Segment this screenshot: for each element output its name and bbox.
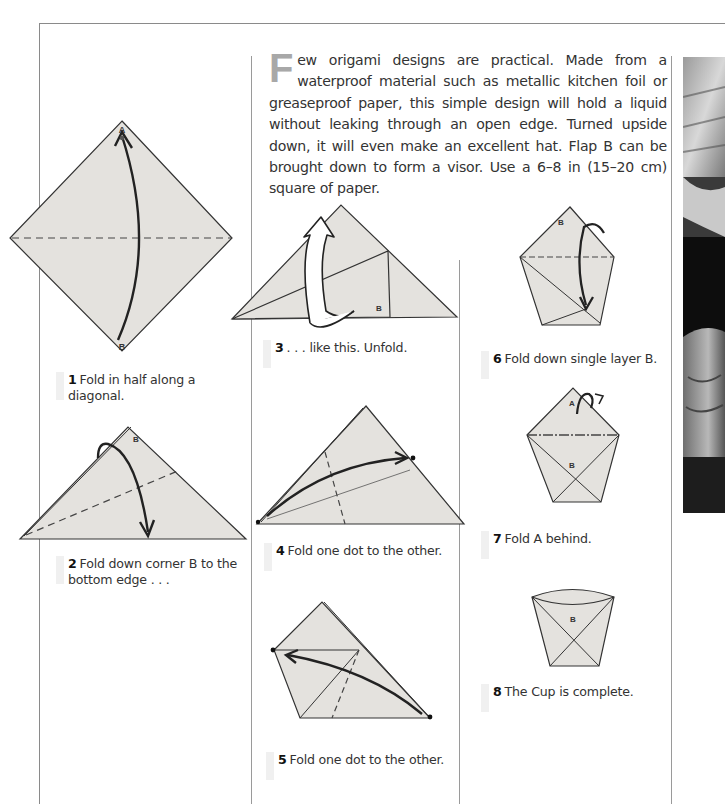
column-divider-3	[671, 56, 672, 804]
step-6-diagram: B	[518, 205, 618, 330]
column-divider-2	[459, 260, 460, 804]
svg-text:B: B	[558, 218, 564, 227]
step-text: Fold down corner B to the bottom edge . …	[68, 556, 237, 587]
step-number: 3	[275, 340, 284, 355]
step-2-caption: 2Fold down corner B to the bottom edge .…	[68, 556, 238, 587]
step-number: 6	[493, 351, 502, 366]
step-number: 5	[278, 752, 287, 767]
step-5-diagram	[270, 600, 440, 722]
svg-text:B: B	[133, 435, 139, 444]
svg-text:B: B	[569, 461, 575, 470]
step-text: . . . like this. Unfold.	[287, 340, 408, 355]
svg-text:B: B	[376, 304, 382, 313]
step-4-caption: 4Fold one dot to the other.	[276, 543, 456, 559]
step-6-caption: 6Fold down single layer B.	[493, 351, 663, 367]
cup-hat-photo	[683, 57, 725, 513]
step-number: 7	[493, 531, 502, 546]
step-number: 1	[68, 372, 77, 387]
frame-top-rule	[39, 23, 725, 24]
step-8-diagram: B	[530, 590, 618, 670]
step-2-diagram: B	[18, 422, 248, 544]
svg-text:B: B	[570, 615, 576, 624]
step-3-caption: 3. . . like this. Unfold.	[275, 340, 445, 356]
step-7-diagram: A B	[525, 386, 621, 506]
step-text: The Cup is complete.	[505, 684, 634, 699]
drop-cap: F	[269, 52, 293, 84]
step-number: 2	[68, 556, 77, 571]
intro-text: ew origami designs are practical. Made f…	[269, 52, 667, 196]
step-number: 8	[493, 684, 502, 699]
intro-paragraph: Few origami designs are practical. Made …	[269, 50, 667, 200]
step-text: Fold in half along a diagonal.	[68, 372, 195, 403]
step-8-caption: 8The Cup is complete.	[493, 684, 663, 700]
step-number: 4	[276, 543, 285, 558]
step-3-diagram: B	[230, 203, 470, 323]
step-7-caption: 7Fold A behind.	[493, 531, 663, 547]
step-5-caption: 5Fold one dot to the other.	[278, 752, 458, 768]
step-text: Fold one dot to the other.	[288, 543, 443, 558]
column-divider-1	[251, 56, 252, 804]
step-4-diagram	[255, 404, 470, 526]
label-b: B	[119, 342, 126, 352]
step-1-diagram: A B	[8, 118, 236, 354]
step-1-caption: 1Fold in half along a diagonal.	[68, 372, 228, 403]
label-a: A	[119, 125, 126, 135]
step-text: Fold A behind.	[505, 531, 592, 546]
step-text: Fold one dot to the other.	[290, 752, 445, 767]
step-text: Fold down single layer B.	[505, 351, 658, 366]
svg-text:A: A	[569, 399, 575, 408]
